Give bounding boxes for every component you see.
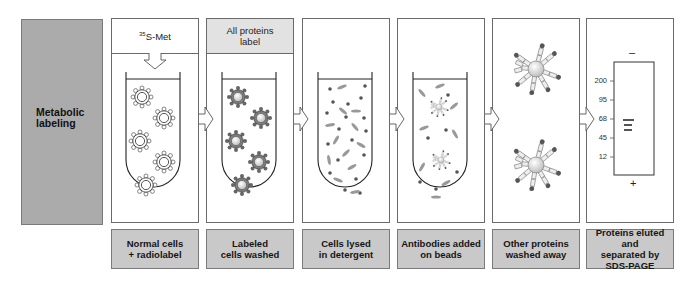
caption-line: separated by bbox=[589, 249, 671, 260]
caption-line: washed away bbox=[503, 249, 568, 260]
gel-marker-12: 12 bbox=[589, 152, 607, 161]
gel-lane bbox=[614, 62, 654, 175]
gel-anode-sign: + bbox=[630, 177, 636, 189]
caption-normal-cells: Normal cells+ radiolabel bbox=[111, 229, 199, 269]
gel-marker-68: 68 bbox=[589, 114, 607, 123]
caption-line: cells washed bbox=[221, 249, 280, 260]
caption-line: Labeled bbox=[221, 238, 280, 249]
caption-line: Antibodies added bbox=[401, 238, 481, 249]
caption-line: SDS-PAGE bbox=[589, 260, 671, 271]
gel-cathode-sign: – bbox=[629, 46, 635, 58]
gel-marker-45: 45 bbox=[589, 133, 607, 142]
caption-antibodies: Antibodies addedon beads bbox=[397, 229, 485, 269]
caption-line: Normal cells bbox=[127, 238, 184, 249]
gel-marker-200: 200 bbox=[589, 76, 607, 85]
caption-line: Cells lysed bbox=[319, 238, 373, 249]
arrow-down-icon bbox=[144, 53, 166, 69]
caption-washed-away: Other proteinswashed away bbox=[492, 229, 580, 269]
caption-line: + radiolabel bbox=[127, 249, 184, 260]
caption-line: Proteins eluted and bbox=[589, 227, 671, 249]
caption-line: Other proteins bbox=[503, 238, 568, 249]
caption-sds-page: Proteins eluted andseparated bySDS-PAGE bbox=[586, 229, 674, 269]
caption-labeled-cells: Labeledcells washed bbox=[206, 229, 294, 269]
caption-cells-lysed: Cells lysedin detergent bbox=[302, 229, 390, 269]
caption-line: on beads bbox=[401, 249, 481, 260]
caption-line: in detergent bbox=[319, 249, 373, 260]
gel-marker-95: 95 bbox=[589, 95, 607, 104]
